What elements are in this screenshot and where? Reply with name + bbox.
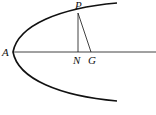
- label-n: N: [73, 55, 80, 66]
- label-a: A: [2, 47, 9, 58]
- parabola-diagram: A P N G: [0, 0, 156, 115]
- normal-pg: [78, 13, 91, 52]
- label-p: P: [75, 0, 82, 11]
- label-g: G: [88, 55, 96, 66]
